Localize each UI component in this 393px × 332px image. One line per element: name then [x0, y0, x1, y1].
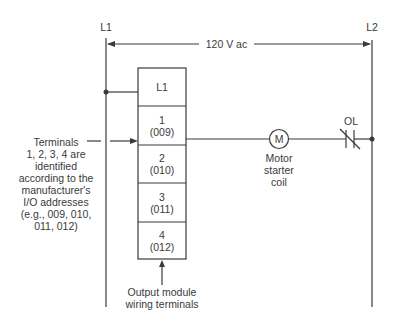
terminal-annotation: Terminals 1, 2, 3, 4 are identified acco… — [14, 136, 98, 232]
terminal-label: 1 — [159, 114, 165, 126]
module-cell-4: 4 (012) — [138, 222, 186, 259]
terminal-address: (009) — [150, 126, 175, 138]
voltage-arrow-left — [107, 41, 115, 47]
terminal-address: (010) — [150, 164, 175, 176]
annotation-arrowhead — [130, 138, 138, 144]
terminal-address: (011) — [150, 203, 174, 215]
terminal-label: 2 — [159, 152, 165, 164]
terminal-address: (012) — [150, 241, 175, 253]
l2-junction-dot — [370, 137, 375, 142]
coil-label: Motor starter coil — [254, 152, 304, 188]
module-cell-2: 2 (010) — [138, 145, 186, 183]
voltage-label: 120 V ac — [199, 38, 254, 50]
l1-label: L1 — [98, 21, 114, 33]
voltage-arrow-right — [363, 41, 371, 47]
l2-label: L2 — [362, 21, 382, 33]
terminal-label: 4 — [159, 229, 165, 241]
module-cell-3: 3 (011) — [138, 183, 186, 222]
caption-arrowhead — [159, 260, 165, 267]
module-cell-1: 1 (009) — [138, 106, 186, 145]
terminal-label: L1 — [156, 81, 168, 93]
l1-junction-dot — [104, 90, 109, 95]
module-caption: Output module wiring terminals — [112, 286, 212, 310]
terminal-label: 3 — [159, 191, 165, 203]
ol-label: OL — [341, 115, 361, 127]
module-cell-l1: L1 — [138, 68, 186, 106]
coil-symbol-letter: M — [272, 133, 286, 145]
